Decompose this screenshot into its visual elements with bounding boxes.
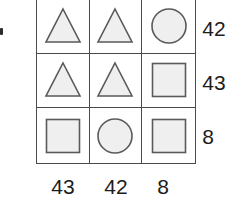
column-label-3: 8 [136, 175, 190, 199]
grid-cell-r2c1[interactable] [37, 54, 90, 109]
column-label-1: 43 [36, 175, 90, 199]
triangle-icon [95, 60, 135, 100]
row-label-2: 43 [196, 71, 232, 95]
triangle-icon [43, 6, 83, 46]
row-label-1: 42 [196, 17, 232, 41]
grid-cell-r1c3[interactable] [142, 0, 195, 54]
triangle-icon [95, 6, 135, 46]
grid-cell-r3c2[interactable] [90, 108, 143, 163]
shape-matrix-grid [36, 0, 196, 164]
column-label-2: 42 [89, 175, 143, 199]
circle-icon [149, 6, 189, 46]
grid-cell-r3c3[interactable] [142, 108, 195, 163]
shape-matrix-figure: 42 43 8 43 42 8 [0, 0, 233, 207]
grid-cell-r2c2[interactable] [90, 54, 143, 109]
triangle-icon [43, 60, 83, 100]
grid-cell-r1c2[interactable] [90, 0, 143, 54]
circle-icon [95, 116, 135, 156]
scan-artifact-speck [0, 28, 3, 35]
grid-cell-r1c1[interactable] [37, 0, 90, 54]
grid-cell-r2c3[interactable] [142, 54, 195, 109]
row-label-3: 8 [190, 125, 226, 149]
square-icon [149, 60, 189, 100]
square-icon [149, 116, 189, 156]
square-icon [43, 116, 83, 156]
grid-cell-r3c1[interactable] [37, 108, 90, 163]
